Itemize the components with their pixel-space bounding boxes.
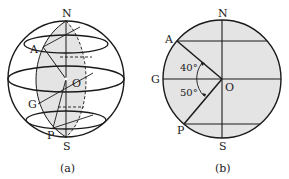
caption-b: (b) [215, 162, 231, 175]
label-o-b: O [225, 81, 234, 94]
figure-b-cross-section: N A G O P S 40° 50° (b) [151, 7, 281, 175]
label-s-a: S [63, 140, 71, 153]
angle-label-40: 40° [180, 62, 198, 73]
label-n-a: N [62, 7, 72, 20]
label-a-b: A [164, 33, 174, 46]
figure-a-sphere: N A O G P S (a) [8, 7, 124, 175]
label-g-a: G [28, 98, 37, 111]
label-g-b: G [151, 73, 160, 86]
label-a-a: A [29, 43, 39, 56]
label-o-a: O [72, 77, 81, 90]
label-n-b: N [218, 7, 228, 20]
angle-label-50: 50° [180, 87, 198, 98]
caption-a: (a) [60, 162, 75, 175]
label-p-a: P [47, 129, 55, 142]
label-p-b: P [177, 124, 185, 137]
diagram-canvas: N A O G P S (a) N A G O P S 40° 50° (b) [0, 0, 289, 179]
label-s-b: S [219, 140, 227, 153]
center-point-o-a [65, 78, 68, 81]
